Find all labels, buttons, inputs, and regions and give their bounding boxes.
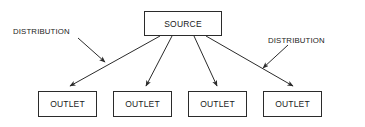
- connector-source-to-outlet-2: [146, 36, 172, 86]
- connector-source-to-outlet-3: [194, 36, 217, 86]
- node-outlet-3-label: OUTLET: [200, 99, 235, 109]
- callout-arrow-distribution-right: [263, 45, 288, 68]
- distribution-diagram: SOURCE OUTLET OUTLET OUTLET OUTLET DISTR…: [0, 0, 365, 127]
- node-source: SOURCE: [144, 11, 222, 36]
- node-outlet-2: OUTLET: [113, 91, 172, 117]
- edge-label-distribution-left: DISTRIBUTION: [13, 27, 70, 36]
- node-outlet-1-label: OUTLET: [50, 99, 85, 109]
- node-outlet-2-label: OUTLET: [125, 99, 160, 109]
- node-outlet-4: OUTLET: [263, 91, 322, 117]
- node-outlet-4-label: OUTLET: [275, 99, 310, 109]
- edge-label-distribution-right: DISTRIBUTION: [268, 36, 325, 45]
- node-source-label: SOURCE: [164, 19, 202, 29]
- callout-arrow-distribution-left: [78, 38, 105, 62]
- node-outlet-3: OUTLET: [188, 91, 247, 117]
- node-outlet-1: OUTLET: [38, 91, 97, 117]
